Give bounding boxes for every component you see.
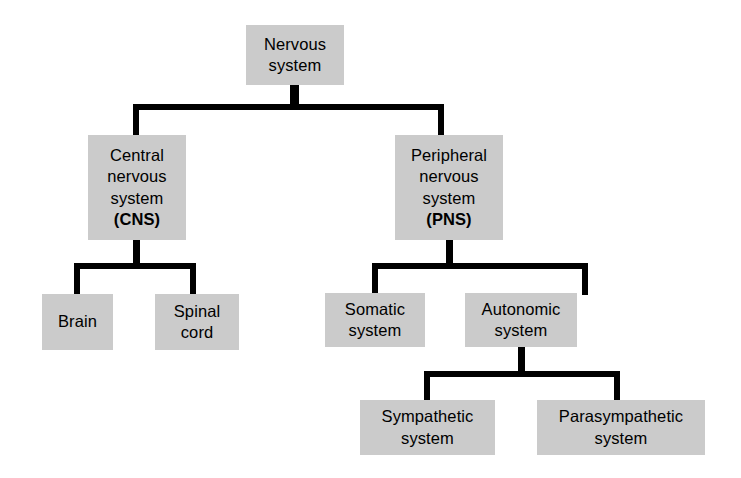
node-parasympathetic-system[interactable]: Parasympathetic system (537, 400, 705, 455)
node-brain[interactable]: Brain (42, 294, 113, 350)
node-pns-line-3: system (423, 188, 476, 209)
connector-autonomic-to-sympathetic (424, 371, 430, 402)
node-autonomic-line-2: system (495, 320, 548, 341)
node-peripheral-nervous-system[interactable]: Peripheral nervous system (PNS) (395, 135, 503, 240)
node-somatic-line-1: Somatic (345, 299, 405, 320)
node-pns-abbreviation: (PNS) (426, 209, 471, 230)
connector-pns-crossbar (372, 263, 588, 269)
node-sympathetic-line-1: Sympathetic (382, 406, 474, 427)
nervous-system-diagram: Nervous system Central nervous system (C… (0, 0, 741, 478)
node-nervous-system-line-1: Nervous (264, 34, 326, 55)
node-parasympathetic-line-2: system (595, 428, 648, 449)
node-spinal-cord-line-1: Spinal (174, 301, 220, 322)
connector-root-crossbar (133, 104, 444, 110)
node-parasympathetic-line-1: Parasympathetic (559, 406, 683, 427)
node-cns-line-3: system (111, 188, 164, 209)
connector-pns-to-somatic (372, 263, 378, 295)
connector-autonomic-to-parasympathetic (614, 371, 620, 402)
connector-root-to-pns (438, 104, 444, 137)
node-autonomic-line-1: Autonomic (482, 299, 561, 320)
node-central-nervous-system[interactable]: Central nervous system (CNS) (88, 135, 186, 240)
node-autonomic-system[interactable]: Autonomic system (465, 293, 577, 347)
node-sympathetic-system[interactable]: Sympathetic system (360, 400, 495, 455)
node-pns-line-1: Peripheral (411, 145, 487, 166)
node-nervous-system-line-2: system (269, 55, 322, 76)
connector-pns-to-autonomic (582, 263, 588, 295)
connector-autonomic-crossbar (424, 371, 620, 377)
connector-cns-to-spinal-cord (190, 263, 196, 296)
node-somatic-line-2: system (349, 320, 402, 341)
connector-cns-crossbar (74, 263, 196, 269)
node-spinal-cord[interactable]: Spinal cord (155, 294, 239, 350)
node-pns-line-2: nervous (419, 166, 478, 187)
connector-root-to-cns (133, 104, 139, 137)
node-spinal-cord-line-2: cord (181, 322, 214, 343)
node-sympathetic-line-2: system (401, 428, 454, 449)
node-somatic-system[interactable]: Somatic system (325, 293, 425, 347)
node-brain-label: Brain (58, 311, 97, 332)
node-nervous-system[interactable]: Nervous system (246, 25, 344, 85)
node-cns-abbreviation: (CNS) (114, 209, 160, 230)
node-cns-line-1: Central (110, 145, 164, 166)
connector-cns-to-brain (74, 263, 80, 296)
node-cns-line-2: nervous (107, 166, 166, 187)
